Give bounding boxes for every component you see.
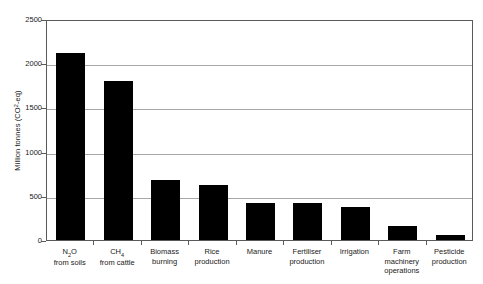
- bar: [246, 203, 275, 240]
- x-label-line2: burning: [152, 257, 177, 266]
- x-label-line1: CH4: [110, 247, 124, 256]
- x-label-subscript: 2: [68, 252, 71, 258]
- bar: [199, 185, 228, 240]
- plot-area: [46, 20, 473, 241]
- y-axis-tick-label: 2500: [16, 16, 42, 24]
- x-label-line1: Biomass: [150, 247, 179, 256]
- x-label-line1: Manure: [247, 247, 272, 256]
- x-axis-category-label: Pesticideproduction: [420, 247, 479, 266]
- x-axis-tick: [141, 241, 142, 245]
- x-label-subscript: 4: [121, 252, 124, 258]
- bar: [151, 180, 180, 240]
- x-axis-tick: [188, 241, 189, 245]
- x-label-line1: Pesticide: [434, 247, 464, 256]
- bar: [436, 235, 465, 240]
- x-axis-tick: [236, 241, 237, 245]
- x-label-line1: Irrigation: [340, 247, 369, 256]
- bar: [341, 207, 370, 240]
- x-label-line2: production: [195, 257, 230, 266]
- bar: [104, 81, 133, 240]
- x-axis-tick: [378, 241, 379, 245]
- x-label-line2: machinery: [385, 257, 420, 266]
- x-axis-tick: [283, 241, 284, 245]
- y-axis-tick-label: 1000: [16, 149, 42, 157]
- x-axis-category-labels: N2Ofrom soilsCH4from cattleBiomassburnin…: [46, 247, 473, 284]
- x-axis-tick-marks: [46, 241, 473, 246]
- x-label-line1: Rice: [205, 247, 220, 256]
- chart-screenshot: Million tonnes (CO2-eq) 0500100015002000…: [0, 0, 483, 284]
- x-axis-tick: [426, 241, 427, 245]
- x-label-line2: from soils: [54, 258, 86, 267]
- x-axis-tick: [93, 241, 94, 245]
- y-axis-tick-label: 500: [16, 193, 42, 201]
- x-axis-tick: [331, 241, 332, 245]
- x-label-line1: Farm: [393, 247, 411, 256]
- y-axis-tick-label: 2000: [16, 60, 42, 68]
- y-axis-tick-label: 0: [16, 237, 42, 245]
- x-label-line2: production: [289, 257, 324, 266]
- bar: [388, 226, 417, 240]
- bar: [56, 53, 85, 240]
- x-label-line1: N2O: [63, 247, 77, 256]
- x-label-line2: production: [432, 257, 467, 266]
- x-label-line2: from cattle: [100, 258, 135, 267]
- y-axis-tick-label: 1500: [16, 104, 42, 112]
- x-label-line1: Fertiliser: [293, 247, 322, 256]
- bars-layer: [47, 21, 472, 240]
- y-axis-tick-labels: 05001000150020002500: [14, 0, 42, 284]
- bar: [293, 203, 322, 240]
- x-label-line3: operations: [384, 266, 419, 275]
